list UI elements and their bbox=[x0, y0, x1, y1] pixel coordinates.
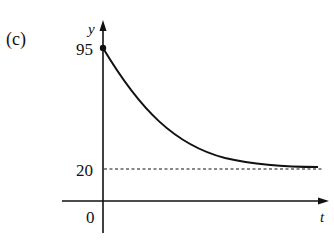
panel-label: (c) bbox=[6, 30, 26, 48]
y-tick-95: 95 bbox=[76, 41, 93, 58]
x-axis-arrow-icon bbox=[318, 198, 329, 205]
initial-point-marker bbox=[100, 45, 106, 51]
y-axis-label: y bbox=[88, 22, 95, 37]
chart-plot-area bbox=[0, 0, 334, 243]
y-axis-arrow-icon bbox=[100, 20, 107, 31]
origin-label: 0 bbox=[86, 209, 95, 226]
decay-curve bbox=[103, 48, 318, 167]
x-axis-label: t bbox=[320, 210, 324, 225]
y-tick-20: 20 bbox=[76, 162, 93, 179]
